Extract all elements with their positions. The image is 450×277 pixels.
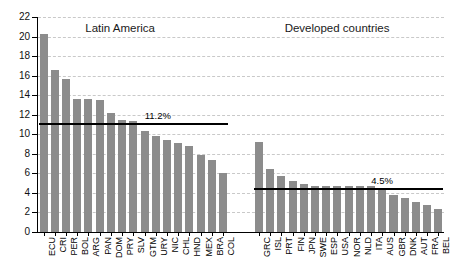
bar-ARG <box>84 99 92 232</box>
x-axis-label-PAN: PAN <box>104 237 113 255</box>
x-tick-JPN <box>304 232 305 236</box>
bar-CRI <box>51 70 59 232</box>
y-tick-label: 22 <box>6 12 30 22</box>
y-tick-label: 4 <box>6 188 30 198</box>
bar-CHL <box>174 143 182 232</box>
panel-title-latin-america: Latin America <box>85 22 155 34</box>
x-tick-BOL <box>77 232 78 236</box>
y-tick-label: 10 <box>6 129 30 139</box>
x-tick-BRA <box>212 232 213 236</box>
x-axis-label-ISL: ISL <box>274 237 283 251</box>
bar-MEX <box>197 155 205 232</box>
x-axis-label-BRA: BRA <box>216 237 225 256</box>
x-axis-label-USA: USA <box>341 237 350 256</box>
x-axis-label-ESP: ESP <box>330 237 339 255</box>
bar-NLD <box>356 186 364 232</box>
x-axis-label-DOM: DOM <box>115 237 124 258</box>
x-axis-label-SLV: SLV <box>137 237 146 253</box>
bar-PER <box>62 79 70 232</box>
x-axis-label-ITA: ITA <box>375 237 384 250</box>
y-tick-10 <box>32 134 37 135</box>
average-line-latin-america <box>39 123 227 125</box>
gridline-20 <box>38 37 444 38</box>
x-axis-label-NOR: NOR <box>353 237 362 257</box>
x-axis-label-AUS: AUS <box>386 237 395 256</box>
x-axis-label-CHL: CHL <box>182 237 191 255</box>
bar-ESP <box>322 186 330 232</box>
y-tick-label: 16 <box>6 71 30 81</box>
bar-ECU <box>40 34 48 232</box>
x-axis-label-PRY: PRY <box>126 237 135 255</box>
y-tick-label: 2 <box>6 207 30 217</box>
bar-NIC <box>163 140 171 232</box>
average-label-latin-america: 11.2% <box>145 110 171 121</box>
x-tick-DOM <box>111 232 112 236</box>
bar-FRA <box>423 205 431 232</box>
average-label-developed-countries: 4.5% <box>371 175 393 186</box>
y-tick-16 <box>32 76 37 77</box>
bar-PAN <box>96 100 104 232</box>
x-tick-AUT <box>416 232 417 236</box>
x-axis-label-NLD: NLD <box>364 237 373 255</box>
bar-URY <box>152 136 160 232</box>
bar-GBR <box>389 195 397 232</box>
x-axis-label-FRA: FRA <box>431 237 440 255</box>
gridline-18 <box>38 56 444 57</box>
bar-SLV <box>129 121 137 232</box>
x-axis-label-ARG: ARG <box>92 237 101 257</box>
x-axis-label-MEX: MEX <box>205 237 214 257</box>
x-tick-PAN <box>100 232 101 236</box>
y-tick-8 <box>32 154 37 155</box>
x-tick-ESP <box>326 232 327 236</box>
bar-GTM <box>141 131 149 232</box>
x-tick-NLD <box>360 232 361 236</box>
y-tick-20 <box>32 37 37 38</box>
x-tick-HND <box>189 232 190 236</box>
y-tick-label: 0 <box>6 227 30 237</box>
x-tick-ARG <box>88 232 89 236</box>
bar-AUS <box>378 189 386 232</box>
bar-DOM <box>107 113 115 232</box>
y-tick-label: 14 <box>6 90 30 100</box>
x-axis-label-SWE: SWE <box>319 237 328 258</box>
x-tick-SLV <box>133 232 134 236</box>
x-axis-label-BOL: BOL <box>81 237 90 255</box>
x-axis-label-GRC: GRC <box>263 237 272 257</box>
x-tick-NIC <box>167 232 168 236</box>
x-tick-PRY <box>122 232 123 236</box>
bar-BRA <box>208 160 216 232</box>
bar-ISL <box>266 169 274 232</box>
y-tick-14 <box>32 95 37 96</box>
bar-ITA <box>367 186 375 232</box>
x-axis-label-CRI: CRI <box>59 237 68 253</box>
y-tick-label: 18 <box>6 51 30 61</box>
x-axis-label-GBR: GBR <box>398 237 407 257</box>
bar-PRY <box>118 120 126 232</box>
x-axis-label-URY: URY <box>160 237 169 256</box>
bar-USA <box>333 186 341 232</box>
x-axis-label-PER: PER <box>70 237 79 256</box>
gridline-16 <box>38 76 444 77</box>
x-tick-ITA <box>371 232 372 236</box>
x-tick-CRI <box>55 232 56 236</box>
x-tick-FRA <box>427 232 428 236</box>
x-tick-GTM <box>145 232 146 236</box>
panel-title-developed-countries: Developed countries <box>285 22 390 34</box>
x-tick-SWE <box>315 232 316 236</box>
bar-HND <box>185 146 193 232</box>
x-tick-PER <box>66 232 67 236</box>
y-tick-label: 12 <box>6 110 30 120</box>
x-tick-URY <box>156 232 157 236</box>
x-tick-GRC <box>259 232 260 236</box>
bar-JPN <box>300 184 308 232</box>
x-axis-label-ECU: ECU <box>48 237 57 256</box>
x-tick-CHL <box>178 232 179 236</box>
y-tick-18 <box>32 56 37 57</box>
bar-NOR <box>345 186 353 232</box>
x-axis-label-NIC: NIC <box>171 237 180 253</box>
y-tick-2 <box>32 212 37 213</box>
x-axis-label-BEL: BEL <box>442 237 450 254</box>
x-axis-label-JPN: JPN <box>308 237 317 254</box>
x-axis-label-AUT: AUT <box>420 237 429 255</box>
x-axis-label-HND: HND <box>193 237 202 257</box>
